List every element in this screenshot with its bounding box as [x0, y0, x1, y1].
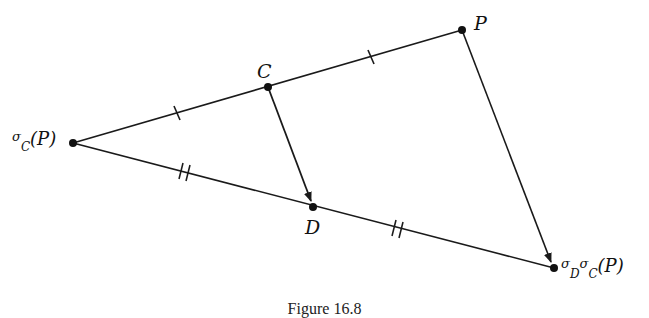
argument-P: (P)	[598, 255, 624, 276]
label-C: C	[257, 62, 272, 81]
label-sigmaD-sigmaC-P: σDσC(P)	[561, 257, 624, 275]
sigma-symbol: σ	[561, 256, 570, 271]
label-D: D	[305, 218, 320, 237]
label-sigmaC-P: σC(P)	[12, 130, 56, 148]
point-sigmaD-sigmaC-P	[550, 264, 558, 272]
point-C	[264, 83, 272, 91]
subscript-C: C	[588, 267, 597, 281]
argument-P: (P)	[30, 128, 56, 149]
tick-mark-double	[392, 220, 403, 238]
sigma-symbol: σ	[12, 129, 21, 144]
point-P	[458, 26, 466, 34]
arrow-C-to-D	[268, 87, 311, 201]
subscript-C: C	[21, 140, 30, 154]
point-D	[309, 203, 317, 211]
point-sigmaC-P	[69, 139, 77, 147]
subscript-D: D	[570, 267, 580, 281]
figure-caption: Figure 16.8	[0, 300, 649, 318]
arrow-P-to-image	[462, 30, 551, 262]
label-P: P	[474, 14, 487, 33]
